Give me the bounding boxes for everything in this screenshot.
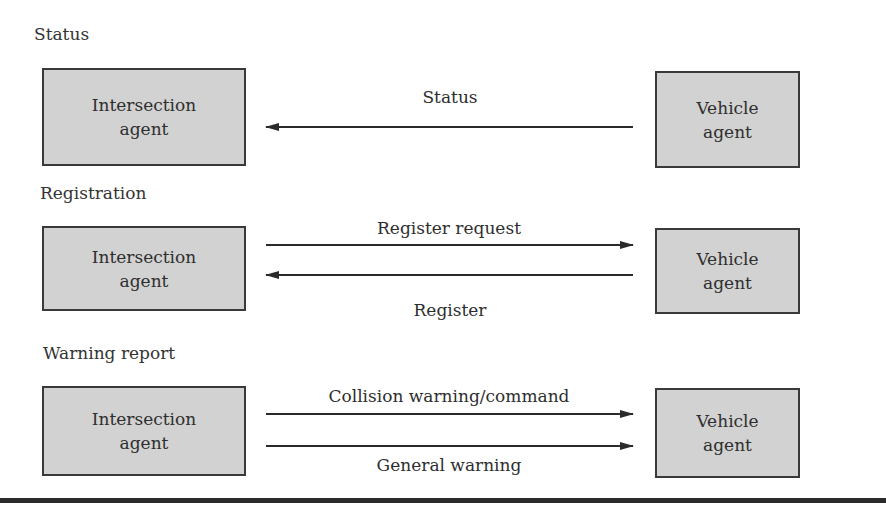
bottom-rule <box>0 498 886 503</box>
message-arrows <box>0 0 886 511</box>
